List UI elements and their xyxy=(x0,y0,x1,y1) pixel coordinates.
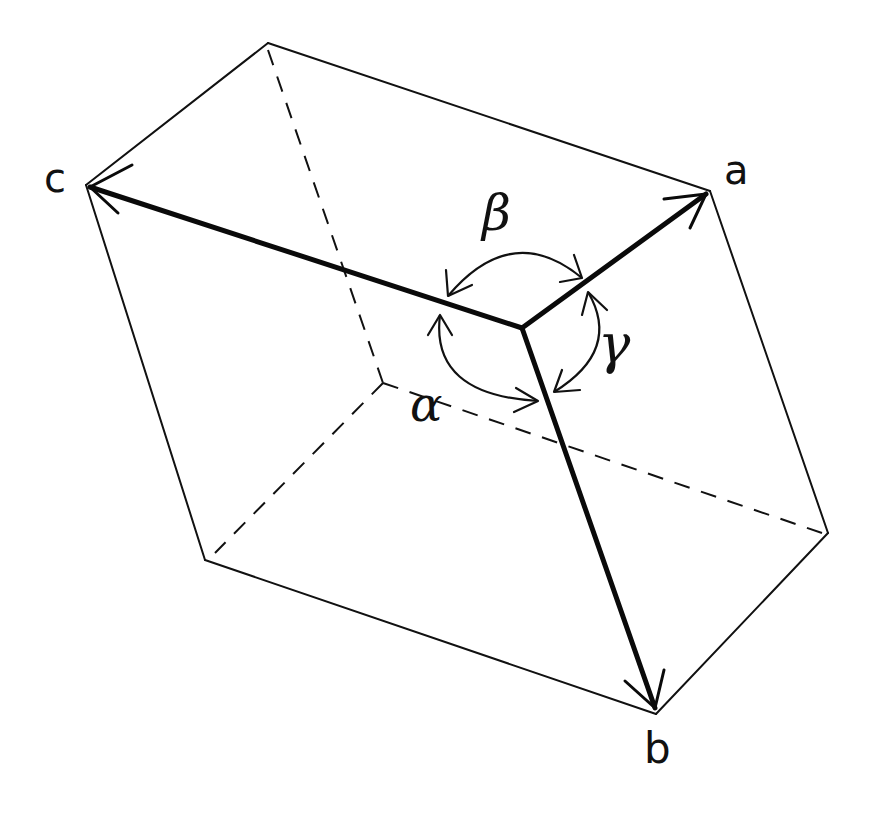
angle-arcs xyxy=(428,253,607,412)
gamma-arc xyxy=(554,292,599,392)
hidden-edge-top xyxy=(268,50,383,383)
edge-right-b xyxy=(656,533,828,714)
hidden-edge-right xyxy=(383,383,822,533)
angle-label-gamma: γ xyxy=(598,318,630,372)
vector-c xyxy=(90,187,522,328)
vector-b xyxy=(522,328,655,708)
axis-label-a: a xyxy=(724,150,749,190)
edge-b-bottomleft xyxy=(205,560,656,714)
angle-label-alpha: α xyxy=(410,380,442,428)
vector-a xyxy=(522,194,706,328)
hidden-edges xyxy=(215,50,822,553)
axis-label-c: c xyxy=(44,158,66,198)
hidden-edge-bottomleft xyxy=(215,383,383,553)
unit-cell-diagram: c a b β γ α xyxy=(0,0,869,819)
angle-label-beta: β xyxy=(482,188,511,238)
beta-arc xyxy=(448,253,582,296)
edge-a-right xyxy=(710,191,828,533)
visible-edges xyxy=(86,43,828,714)
edge-bottomleft-c xyxy=(86,185,205,560)
edge-top-a xyxy=(268,43,710,191)
axis-label-b: b xyxy=(644,728,671,770)
edge-c-top xyxy=(86,43,268,185)
